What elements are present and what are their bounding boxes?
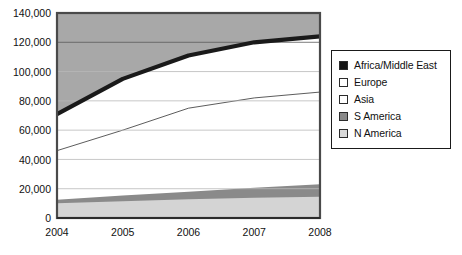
y-tick-label: 40,000	[19, 154, 51, 166]
x-tick-label: 2008	[308, 226, 332, 238]
legend-item-africa-middle-east[interactable]: Africa/Middle East	[339, 57, 443, 74]
chart-root: 140,000 120,000 100,000 80,000 60,000 40…	[0, 0, 462, 255]
y-tick-label: 80,000	[19, 95, 51, 107]
y-tick-label: 120,000	[13, 36, 51, 48]
chart-legend: Africa/Middle East Europe Asia S America…	[331, 50, 451, 149]
legend-item-europe[interactable]: Europe	[339, 74, 443, 91]
legend-label: N America	[354, 128, 402, 139]
legend-item-asia[interactable]: Asia	[339, 91, 443, 108]
legend-label: S America	[354, 111, 401, 122]
x-tick-label: 2005	[111, 226, 135, 238]
y-tick-label: 20,000	[19, 183, 51, 195]
legend-swatch-africa-middle-east	[339, 61, 348, 70]
legend-label: Africa/Middle East	[354, 60, 437, 71]
legend-label: Europe	[354, 77, 387, 88]
x-axis-tick-labels: 2004 2005 2006 2007 2008	[45, 226, 332, 238]
y-axis-tick-labels: 140,000 120,000 100,000 80,000 60,000 40…	[13, 7, 51, 224]
y-tick-label: 140,000	[13, 7, 51, 19]
legend-swatch-europe	[339, 78, 348, 87]
legend-item-n-america[interactable]: N America	[339, 125, 443, 142]
x-tick-label: 2004	[45, 226, 69, 238]
legend-item-s-america[interactable]: S America	[339, 108, 443, 125]
legend-swatch-asia	[339, 95, 348, 104]
x-tick-label: 2006	[177, 226, 201, 238]
legend-swatch-s-america	[339, 112, 348, 121]
y-tick-label: 0	[45, 212, 51, 224]
x-tick-label: 2007	[243, 226, 267, 238]
y-tick-label: 60,000	[19, 124, 51, 136]
legend-swatch-n-america	[339, 129, 348, 138]
y-tick-label: 100,000	[13, 66, 51, 78]
legend-label: Asia	[354, 94, 374, 105]
